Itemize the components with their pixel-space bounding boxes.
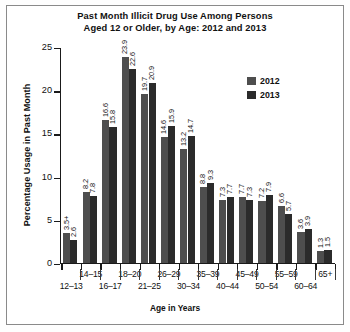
legend-swatch	[247, 77, 256, 85]
x-label-separator	[335, 269, 336, 280]
bar-2013-21-25: 20.9	[149, 83, 156, 262]
y-axis-tick	[54, 91, 60, 92]
x-axis-category-label: 35–39	[186, 269, 230, 279]
bar-2013-60-64: 3.9	[305, 229, 312, 262]
bar-group: 3.63.9	[296, 48, 316, 263]
chart-legend: 20122013	[247, 76, 280, 103]
bar-group: 3.5+2.6	[61, 48, 81, 263]
bar-2013-30-34: 14.7	[188, 136, 195, 262]
bar-2013-14-15: 7.8	[90, 196, 97, 263]
x-axis-category-label: 60–64	[284, 281, 328, 291]
bar-2013-18-20: 22.6	[129, 69, 136, 263]
bar-value-label: 9.3	[205, 170, 214, 180]
x-axis-category-label: 26–29	[147, 269, 191, 279]
x-axis-category-label: 12–13	[49, 281, 93, 291]
x-axis-category-label: 30–34	[166, 281, 210, 291]
bar-value-label: 5.7	[284, 201, 293, 211]
y-axis-tick-label: 0	[26, 258, 52, 268]
x-label-separator	[120, 269, 121, 280]
bar-value-label: 7.3	[244, 187, 253, 197]
bar-2012-12-13: 3.5+	[63, 233, 70, 263]
x-axis-title: Age in Years	[0, 303, 350, 313]
legend-swatch	[247, 91, 256, 99]
bar-value-label: 14.7	[186, 119, 195, 133]
bar-2012-26-29: 14.6	[161, 137, 168, 262]
bar-value-label: 1.5	[323, 237, 332, 247]
bar-value-label: 7.9	[264, 182, 273, 192]
x-label-separator	[100, 269, 101, 280]
bar-2013-16-17: 15.8	[109, 127, 116, 263]
bar-group: 23.922.6	[120, 48, 140, 263]
x-label-separator	[237, 269, 238, 280]
y-axis-tick	[54, 48, 60, 49]
bar-2012-45-49: 7.7	[239, 197, 246, 263]
bar-group: 1.31.5	[315, 48, 335, 263]
bar-value-label: 15.8	[108, 110, 117, 124]
legend-item-2013: 2013	[247, 90, 280, 100]
bar-value-label: 2.6	[69, 227, 78, 237]
x-axis-category-label: 18–20	[108, 269, 152, 279]
bar-series-container: 3.5+2.68.27.816.615.823.922.619.720.914.…	[61, 48, 335, 263]
x-label-separator	[256, 269, 257, 280]
bar-value-label: 7.7	[225, 184, 234, 194]
bar-value-label: 22.6	[127, 52, 136, 66]
bar-2013-55-59: 5.7	[285, 214, 292, 263]
x-axis-category-label: 55–59	[264, 269, 308, 279]
y-axis-tick	[54, 221, 60, 222]
bar-2013-26-29: 15.9	[168, 126, 175, 262]
bar-value-label: 15.9	[166, 109, 175, 123]
bar-group: 8.27.8	[81, 48, 101, 263]
x-axis-category-label: 16–17	[88, 281, 132, 291]
bar-group: 7.37.7	[218, 48, 238, 263]
bar-2013-35-39: 9.3	[207, 183, 214, 263]
bar-group: 14.615.9	[159, 48, 179, 263]
bar-2012-16-17: 16.6	[102, 120, 109, 262]
y-axis-tick	[54, 134, 60, 135]
y-axis-tick-label: 5	[26, 215, 52, 225]
bar-2012-50-54: 7.2	[258, 201, 265, 263]
y-axis-tick-label: 15	[26, 128, 52, 138]
x-label-separator	[198, 269, 199, 280]
plot-area: 0510152025 3.5+2.68.27.816.615.823.922.6…	[60, 48, 335, 264]
x-axis-category-labels: 12–1314–1516–1718–2021–2526–2930–3435–39…	[60, 269, 335, 295]
bar-group: 19.720.9	[140, 48, 160, 263]
bar-2013-40-44: 7.7	[227, 197, 234, 263]
bar-2012-30-34: 13.2	[180, 149, 187, 262]
x-label-separator	[295, 269, 296, 280]
bar-2012-65+: 1.3	[317, 251, 324, 262]
x-axis-category-label: 45–49	[225, 269, 269, 279]
y-axis-tick	[54, 178, 60, 179]
bar-2013-45-49: 7.3	[246, 200, 253, 263]
x-axis-category-label: 65+	[303, 269, 347, 279]
x-label-separator	[159, 269, 160, 280]
x-label-separator	[178, 269, 179, 280]
bar-value-label: 7.8	[88, 183, 97, 193]
bar-2012-60-64: 3.6	[297, 232, 304, 263]
x-label-separator	[217, 269, 218, 280]
y-axis-tick-label: 20	[26, 85, 52, 95]
chart-title: Past Month Illicit Drug Use Among Person…	[0, 11, 350, 34]
bar-2013-50-54: 7.9	[266, 195, 273, 263]
bar-value-label: 20.9	[147, 66, 156, 80]
bar-value-label: 3.9	[303, 216, 312, 226]
legend-label: 2012	[260, 76, 280, 86]
x-axis-category-label: 21–25	[127, 281, 171, 291]
bar-group: 13.214.7	[179, 48, 199, 263]
bar-2012-21-25: 19.7	[141, 94, 148, 263]
x-label-separator	[139, 269, 140, 280]
x-label-separator	[315, 269, 316, 280]
y-axis-tick-label: 25	[26, 42, 52, 52]
legend-item-2012: 2012	[247, 76, 280, 86]
chart-title-line-2: Aged 12 or Older, by Age: 2012 and 2013	[0, 23, 350, 35]
bar-2012-18-20: 23.9	[122, 57, 129, 262]
bar-value-label: 13.2	[178, 132, 187, 146]
y-axis-tick-label: 10	[26, 172, 52, 182]
x-axis-category-label: 14–15	[69, 269, 113, 279]
bar-2012-14-15: 8.2	[83, 192, 90, 262]
bar-group: 16.615.8	[100, 48, 120, 263]
x-label-separator	[80, 269, 81, 280]
bar-2012-40-44: 7.3	[219, 200, 226, 263]
bar-2013-65+: 1.5	[324, 250, 331, 263]
bar-2012-35-39: 8.8	[200, 187, 207, 263]
x-axis-category-label: 40–44	[206, 281, 250, 291]
